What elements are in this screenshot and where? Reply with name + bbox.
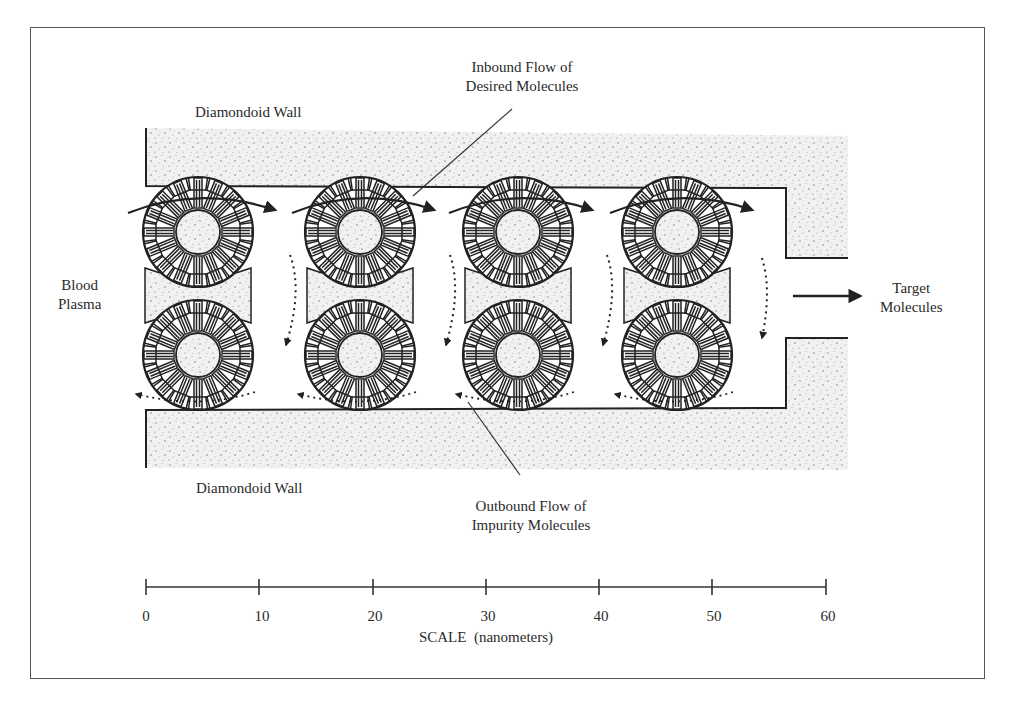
label-target-line1: Target [880,279,942,298]
scale-tick-20: 20 [368,608,383,625]
diagram-graphic [0,0,1012,707]
label-outbound-line2: Impurity Molecules [446,516,616,535]
sorting-rotor-diagram: Diamondoid Wall Inbound Flow of Desired … [0,0,1012,707]
scale-title: SCALE (nanometers) [419,628,553,647]
label-outbound-flow: Outbound Flow of Impurity Molecules [446,497,616,535]
scale-tick-60: 60 [821,608,836,625]
label-blood-line2: Plasma [58,295,101,314]
label-blood-plasma: Blood Plasma [58,276,101,314]
scale-tick-30: 30 [481,608,496,625]
label-diamondoid-wall-bottom: Diamondoid Wall [196,479,302,498]
scale-tick-40: 40 [594,608,609,625]
label-blood-line1: Blood [58,276,101,295]
label-diamondoid-wall-top: Diamondoid Wall [195,103,301,122]
label-inbound-line2: Desired Molecules [437,77,607,96]
label-inbound-flow: Inbound Flow of Desired Molecules [437,58,607,96]
label-target-line2: Molecules [880,298,942,317]
scale-bar [146,579,826,595]
scale-tick-50: 50 [707,608,722,625]
label-target-molecules: Target Molecules [880,279,942,317]
scale-tick-10: 10 [255,608,270,625]
label-inbound-line1: Inbound Flow of [437,58,607,77]
scale-tick-0: 0 [142,608,150,625]
label-outbound-line1: Outbound Flow of [446,497,616,516]
